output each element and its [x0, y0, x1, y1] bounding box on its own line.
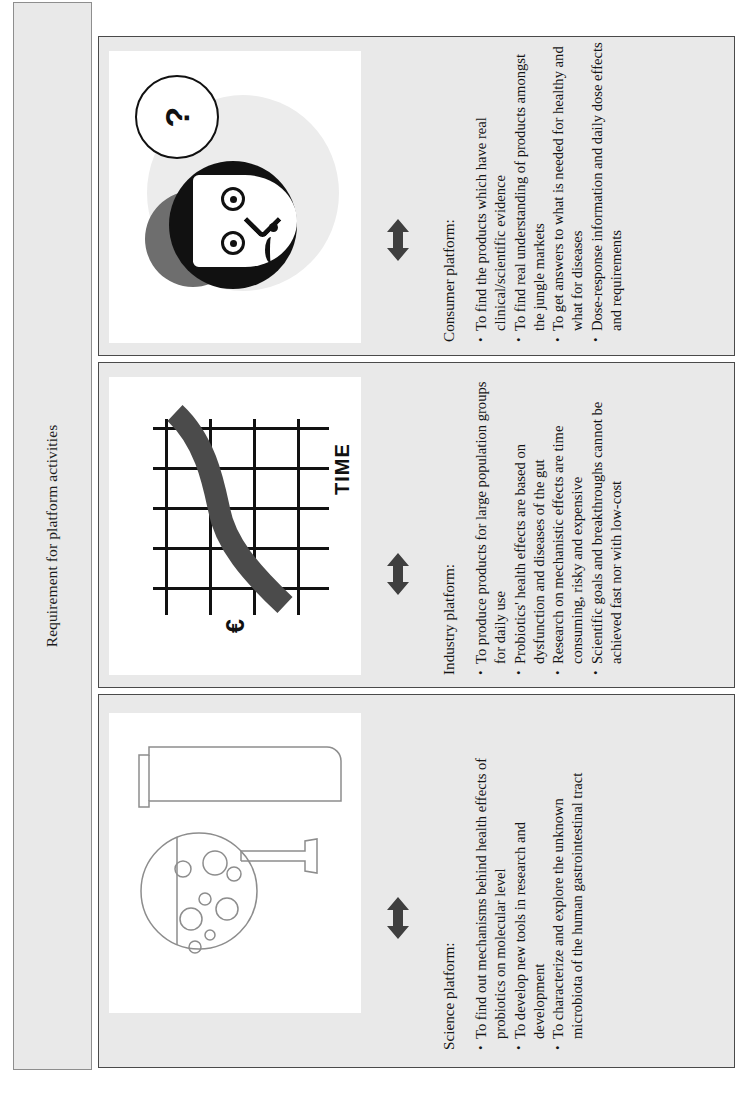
list-item: Scientific goals and breakthroughs canno…	[588, 375, 627, 675]
list-item: Dose-response information and daily dose…	[588, 42, 627, 342]
list-item: To find the products which have real cli…	[472, 42, 511, 342]
list-item: To find real understanding of products a…	[511, 42, 550, 342]
industry-heading: Industry platform:	[439, 375, 459, 675]
consumer-bullet-list: To find the products which have real cli…	[472, 42, 626, 342]
industry-artwork: TIME €	[109, 377, 361, 675]
list-item: Probiotics' health effects are based on …	[511, 375, 550, 675]
figure-title-strip: Requirement for platform activities	[13, 2, 92, 1070]
y-axis-label: €	[221, 619, 250, 633]
eye-icon	[221, 231, 245, 255]
list-item: To find out mechanisms behind health eff…	[472, 750, 511, 1050]
figure-title: Requirement for platform activities	[44, 425, 62, 648]
double-arrow-icon	[375, 895, 421, 941]
list-item: To develop new tools in research and dev…	[511, 750, 550, 1050]
list-item: To characterize and explore the unknown …	[549, 750, 588, 1050]
figure-root: Requirement for platform activities	[0, 0, 743, 1095]
question-bubble: ?	[135, 75, 219, 159]
eye-icon	[221, 187, 245, 211]
consumer-artwork: ?	[109, 51, 361, 343]
science-bullet-list: To find out mechanisms behind health eff…	[472, 750, 588, 1050]
industry-bullet-list: To produce products for large population…	[472, 375, 626, 675]
industry-text-block: Industry platform: To produce products f…	[439, 375, 626, 675]
panel-consumer: ? Consumer platform: To find the product…	[98, 36, 735, 356]
double-arrow-icon	[375, 551, 421, 597]
list-item: Research on mechanistic effects are time…	[549, 375, 588, 675]
science-heading: Science platform:	[439, 750, 459, 1050]
x-axis-label: TIME	[331, 443, 354, 495]
panel-science: Science platform: To find out mechanisms…	[98, 694, 735, 1068]
consumer-text-block: Consumer platform: To find the products …	[439, 42, 626, 342]
list-item: To get answers to what is needed for hea…	[549, 42, 588, 342]
question-mark-icon: ?	[160, 107, 194, 128]
double-arrow-icon	[375, 217, 421, 263]
consumer-heading: Consumer platform:	[439, 42, 459, 342]
science-text-block: Science platform: To find out mechanisms…	[439, 750, 588, 1050]
science-artwork	[109, 713, 361, 1013]
panel-industry: TIME € Industry platform: To produce pro…	[98, 362, 735, 688]
flask-and-test-tube-icon	[109, 713, 361, 1013]
list-item: To produce products for large population…	[472, 375, 511, 675]
